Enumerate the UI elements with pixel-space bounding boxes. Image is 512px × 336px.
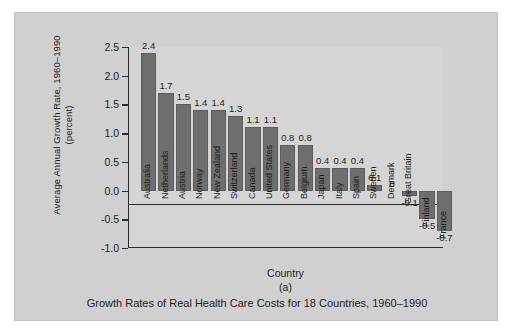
category-label: Great Britain bbox=[403, 154, 413, 205]
category-label: Norway bbox=[194, 168, 204, 199]
zero-baseline bbox=[128, 204, 443, 205]
y-tick-label: 0.5 bbox=[104, 156, 119, 168]
category-label: Denmark bbox=[386, 162, 396, 199]
y-tick-mark bbox=[122, 104, 128, 105]
category-label: Spain bbox=[351, 176, 361, 199]
y-tick-mark bbox=[122, 191, 128, 192]
y-tick-mark bbox=[122, 76, 128, 77]
y-tick-mark bbox=[122, 47, 128, 48]
bar-value-label: 1.5 bbox=[177, 91, 190, 102]
bar-value-label: 1.4 bbox=[194, 97, 207, 108]
y-tick-mark bbox=[122, 133, 128, 134]
bar-value-label: 1.7 bbox=[159, 80, 172, 91]
y-axis-title: Average Annual Growth Rate, 1960–1990 (p… bbox=[51, 25, 75, 225]
bar-value-label: 1.1 bbox=[264, 114, 277, 125]
y-tick-mark bbox=[122, 248, 128, 249]
x-axis-title: Country bbox=[128, 267, 443, 279]
category-label: Italy bbox=[334, 182, 344, 199]
bar-value-label: 1.3 bbox=[229, 103, 242, 114]
y-tick-label: 2.0 bbox=[104, 70, 119, 82]
bar-value-label: 0.4 bbox=[333, 155, 346, 166]
y-axis-title-line-2: (percent) bbox=[63, 25, 75, 225]
y-tick-label: -1.0 bbox=[101, 242, 119, 254]
figure-panel: Average Annual Growth Rate, 1960–1990 (p… bbox=[14, 12, 498, 321]
plot-area: 2.52.01.51.00.50.0-0.5-1.0 2.41.71.51.41… bbox=[128, 47, 443, 248]
category-label: Austria bbox=[177, 171, 187, 199]
category-label: New Zealand bbox=[212, 146, 222, 199]
y-tick-label: -0.5 bbox=[101, 213, 119, 225]
category-label: Belgium bbox=[299, 166, 309, 199]
bar-value-label: 2.4 bbox=[142, 40, 155, 51]
y-tick-label: 2.5 bbox=[104, 41, 119, 53]
panel-letter: (a) bbox=[128, 281, 443, 293]
bar-value-label: 0.8 bbox=[299, 132, 312, 143]
category-label: United States bbox=[264, 145, 274, 199]
y-axis-title-line-1: Average Annual Growth Rate, 1960–1990 bbox=[51, 25, 63, 225]
bar-value-label: 0.8 bbox=[281, 132, 294, 143]
bar-value-label: 0.4 bbox=[316, 155, 329, 166]
y-tick-label: 1.5 bbox=[104, 98, 119, 110]
category-label: Australia bbox=[142, 164, 152, 199]
figure-caption: Growth Rates of Real Health Care Costs f… bbox=[15, 297, 499, 309]
y-tick-mark bbox=[122, 162, 128, 163]
category-label: Germany bbox=[281, 162, 291, 199]
category-label: Canada bbox=[247, 167, 257, 199]
category-label: Japan bbox=[316, 174, 326, 199]
y-tick-label: 0.0 bbox=[104, 185, 119, 197]
y-tick-mark bbox=[122, 219, 128, 220]
category-label: Switzerland bbox=[229, 152, 239, 199]
category-label: France bbox=[438, 211, 448, 239]
bar-value-label: 0.4 bbox=[351, 155, 364, 166]
category-label: Netherlands bbox=[160, 150, 170, 199]
bar-value-label: 1.4 bbox=[212, 97, 225, 108]
bar-value-label: 1.1 bbox=[246, 114, 259, 125]
category-label: Finland bbox=[421, 198, 431, 228]
category-label: Sweden bbox=[368, 166, 378, 199]
y-tick-label: 1.0 bbox=[104, 127, 119, 139]
